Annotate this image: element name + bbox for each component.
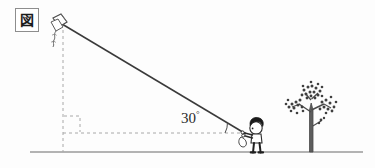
kite (51, 14, 67, 47)
figure-canvas: 図 (0, 0, 375, 168)
child-leg-left (253, 143, 254, 153)
kite-string-line (62, 24, 246, 134)
child-flying-kite (239, 117, 263, 152)
kite-tail (53, 31, 56, 47)
tree-branch-right (312, 104, 325, 110)
angle-label: 30° (181, 110, 200, 126)
child-eye (252, 128, 254, 130)
tree-trunk (310, 103, 314, 152)
angle-arc (225, 123, 228, 134)
child-hand-upper (241, 131, 244, 134)
figure-drawing (0, 0, 375, 168)
angle-value: 30 (181, 110, 196, 126)
right-angle-marker (64, 116, 80, 132)
child-hand-lower (242, 134, 245, 137)
tree (285, 81, 338, 152)
tree-branch-left (299, 104, 311, 112)
kite-reel (239, 137, 247, 147)
child-leg-right (260, 143, 261, 153)
degree-symbol: ° (196, 109, 200, 119)
